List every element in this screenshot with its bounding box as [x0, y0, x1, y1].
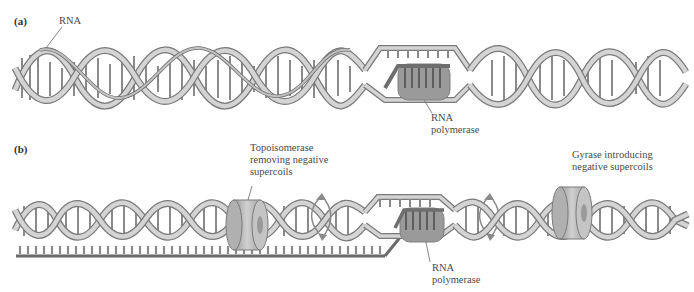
panel-b-rna-polymerase — [395, 208, 444, 242]
polymerase-b-leader-line — [426, 242, 430, 262]
gyrase-label: Gyrase introducing negative supercoils — [572, 149, 653, 173]
panel-a-rna-polymerase — [385, 64, 450, 100]
polymerase-a-label: RNA polymerase — [431, 112, 479, 136]
topoisomerase-ring — [226, 200, 268, 250]
rna-leader-line — [46, 27, 62, 48]
diagram-canvas — [0, 0, 694, 292]
panel-label-b: (b) — [14, 143, 27, 155]
rna-label: RNA — [59, 15, 81, 27]
panel-a-downstream-dna — [470, 48, 686, 105]
panel-a-dna-helix — [15, 48, 365, 106]
topoisomerase-leader-line — [248, 186, 252, 200]
panel-label-a: (a) — [14, 15, 27, 27]
polymerase-b-label: RNA polymerase — [432, 262, 480, 286]
topoisomerase-label: Topoisomerase removing negative supercoi… — [250, 142, 328, 178]
gyrase-ring — [552, 187, 592, 239]
